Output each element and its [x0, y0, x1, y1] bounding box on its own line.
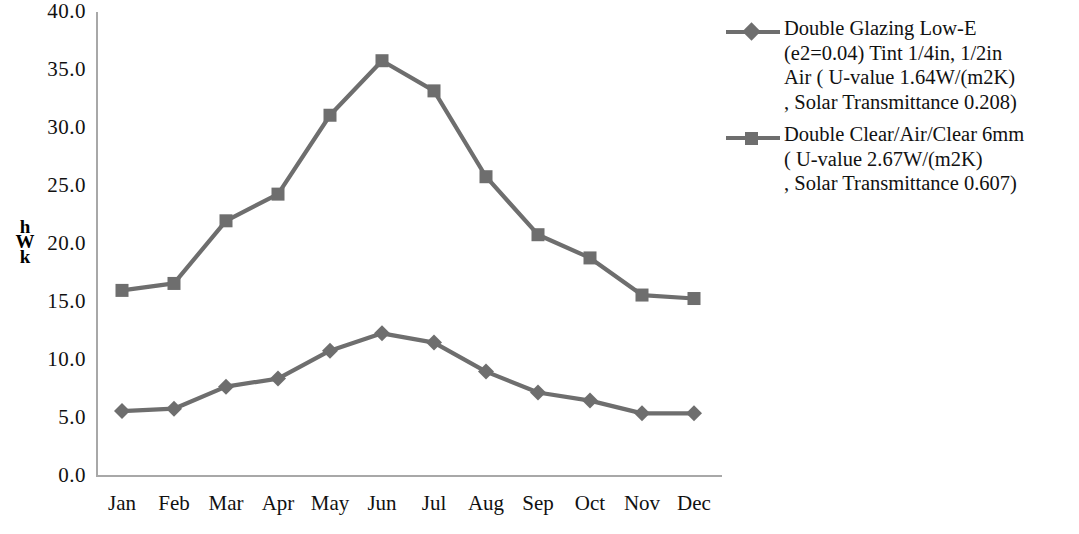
data-point-diamond [478, 364, 494, 380]
y-axis-tick-label: 25.0 [0, 175, 86, 196]
y-axis-title: hWk [8, 219, 42, 264]
data-point-square [116, 284, 129, 297]
y-axis-tick-label: 30.0 [0, 117, 86, 138]
series-line [122, 333, 694, 413]
chart-figure: 40.035.030.025.020.015.010.05.00.0 hWk J… [0, 0, 1079, 534]
data-point-square [636, 289, 649, 302]
x-axis-tick-labels: JanFebMarAprMayJunJulAugSepOctNovDec [96, 489, 720, 529]
chart-legend: Double Glazing Low-E(e2=0.04) Tint 1/4in… [726, 16, 1074, 204]
data-point-diamond [634, 405, 650, 421]
data-point-diamond [270, 371, 286, 387]
data-point-square [688, 292, 701, 305]
legend-label-line: ( U-value 2.67W/(m2K) [784, 147, 1074, 172]
data-point-square [480, 170, 493, 183]
plot-area [96, 12, 720, 476]
y-axis-title-char: k [8, 249, 42, 264]
y-axis-tick-label: 15.0 [0, 291, 86, 312]
legend-label-line: , Solar Transmittance 0.208) [784, 90, 1074, 115]
legend-entry-2[interactable]: Double Clear/Air/Clear 6mm( U-value 2.67… [726, 122, 1074, 196]
legend-entry-1[interactable]: Double Glazing Low-E(e2=0.04) Tint 1/4in… [726, 16, 1074, 114]
data-point-diamond [374, 325, 390, 341]
series-2 [116, 54, 701, 305]
data-point-square [376, 54, 389, 67]
data-point-square [428, 84, 441, 97]
y-axis-tick-label: 35.0 [0, 59, 86, 80]
legend-label-line: (e2=0.04) Tint 1/4in, 1/2in [784, 41, 1074, 66]
series-layer [96, 12, 720, 476]
data-point-square [220, 214, 233, 227]
data-point-square [324, 109, 337, 122]
data-point-diamond [686, 405, 702, 421]
data-point-diamond [426, 335, 442, 351]
legend-label-line: , Solar Transmittance 0.607) [784, 171, 1074, 196]
data-point-square [272, 188, 285, 201]
data-point-diamond [322, 343, 338, 359]
legend-square-marker-icon [745, 132, 758, 145]
data-point-diamond [114, 403, 130, 419]
legend-label-line: Air ( U-value 1.64W/(m2K) [784, 65, 1074, 90]
data-point-diamond [166, 401, 182, 417]
y-axis-tick-label: 5.0 [0, 407, 86, 428]
legend-label-line: Double Glazing Low-E [784, 16, 1074, 41]
data-point-square [584, 251, 597, 264]
legend-key [726, 25, 780, 39]
series-1 [114, 325, 702, 421]
data-point-diamond [530, 384, 546, 400]
legend-label-line: Double Clear/Air/Clear 6mm [784, 122, 1074, 147]
legend-key [726, 131, 780, 145]
y-axis-tick-label: 40.0 [0, 1, 86, 22]
x-axis-tick-label: Dec [659, 489, 729, 517]
data-point-square [168, 277, 181, 290]
legend-diamond-marker-icon [742, 22, 760, 40]
y-axis-tick-label: 10.0 [0, 349, 86, 370]
data-point-square [532, 228, 545, 241]
y-axis-tick-label: 0.0 [0, 465, 86, 486]
data-point-diamond [218, 379, 234, 395]
series-line [122, 61, 694, 299]
y-axis-tick-labels: 40.035.030.025.020.015.010.05.00.0 [0, 0, 86, 534]
data-point-diamond [582, 393, 598, 409]
